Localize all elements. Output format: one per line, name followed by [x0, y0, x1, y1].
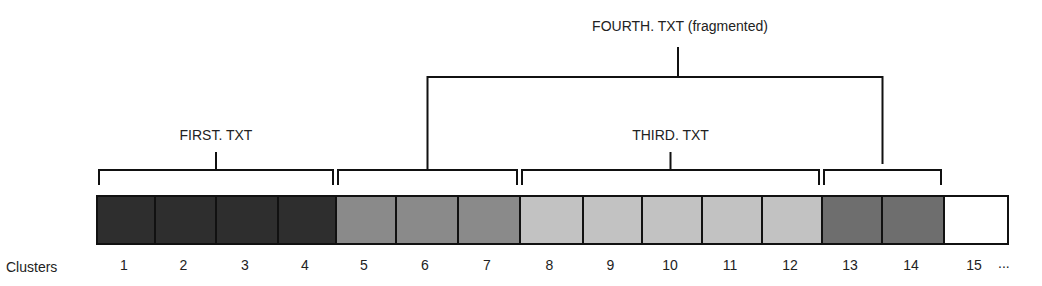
cluster-number: 10: [662, 257, 678, 273]
bracket-fourth-b: [824, 170, 941, 185]
cluster-cell-11: [702, 196, 762, 244]
cluster-cell-2: [155, 196, 216, 244]
cluster-number: 5: [360, 257, 368, 273]
bracket-label-third: THIRD. TXT: [632, 127, 709, 143]
cluster-number: 11: [723, 257, 738, 273]
cluster-cell-13: [822, 196, 882, 244]
cluster-number: 6: [421, 257, 429, 273]
cluster-cell-7: [458, 196, 520, 244]
cluster-number: 1: [120, 257, 128, 273]
cluster-number: 13: [842, 257, 858, 273]
bracket-label-first: FIRST. TXT: [180, 127, 253, 143]
cluster-cell-12: [762, 196, 822, 244]
bracket-fourth-a: [338, 170, 517, 185]
cluster-diagram: FIRST. TXTTHIRD. TXT 1234567891011121314…: [0, 0, 1042, 286]
cluster-cell-1: [97, 196, 155, 244]
cluster-number: 12: [782, 257, 798, 273]
clusters-row-label: Clusters: [6, 259, 57, 275]
cluster-cell-4: [278, 196, 336, 244]
cluster-number: 9: [607, 257, 615, 273]
cluster-number: 3: [241, 257, 249, 273]
cluster-cell-3: [216, 196, 278, 244]
cluster-cell-10: [642, 196, 702, 244]
cluster-number: 15: [966, 257, 982, 273]
fourth-fragment-connector: [428, 47, 883, 170]
cluster-cell-8: [520, 196, 583, 244]
cluster-number: 8: [546, 257, 554, 273]
bracket-first: FIRST. TXT: [99, 127, 333, 185]
cluster-number: 7: [483, 257, 491, 273]
cluster-cell-9: [583, 196, 642, 244]
cluster-number: 4: [301, 257, 309, 273]
cluster-cell-15: [944, 196, 1008, 244]
cluster-cell-14: [882, 196, 944, 244]
fourth-fragmented-label: FOURTH. TXT (fragmented): [592, 18, 768, 34]
cluster-cell-5: [336, 196, 396, 244]
bracket-third: THIRD. TXT: [522, 127, 819, 185]
cluster-number: 14: [903, 257, 919, 273]
cluster-number: 2: [180, 257, 188, 273]
cluster-cell-6: [396, 196, 458, 244]
ellipsis: ...: [998, 255, 1010, 271]
